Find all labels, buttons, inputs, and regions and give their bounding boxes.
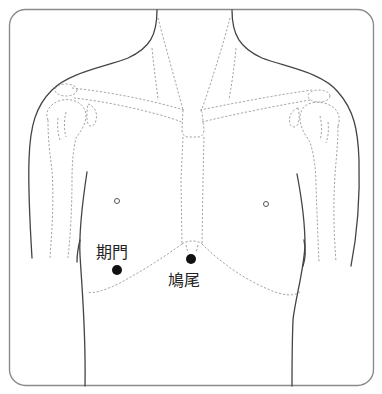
acupoint-jiuwei-label: 鳩尾	[168, 271, 200, 290]
chest-acupoint-diagram: 期門 鳩尾	[0, 0, 382, 394]
acupoint-qimen-label: 期門	[96, 243, 128, 262]
acupoint-qimen-marker	[112, 265, 122, 275]
acupoint-jiuwei-marker	[186, 254, 196, 264]
nipple-left-landmark	[115, 199, 120, 204]
diagram-frame	[10, 10, 374, 386]
nipple-right-landmark	[264, 202, 269, 207]
